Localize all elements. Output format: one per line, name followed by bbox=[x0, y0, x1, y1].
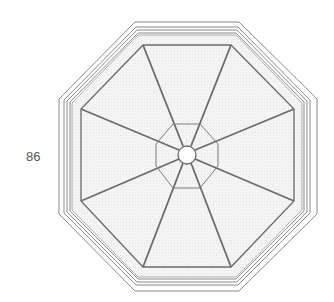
figure-label: 86 bbox=[26, 149, 40, 164]
octagon-window-drawing bbox=[0, 0, 334, 302]
octagon-diagram: 86 bbox=[0, 0, 334, 302]
center-hub bbox=[178, 146, 196, 164]
